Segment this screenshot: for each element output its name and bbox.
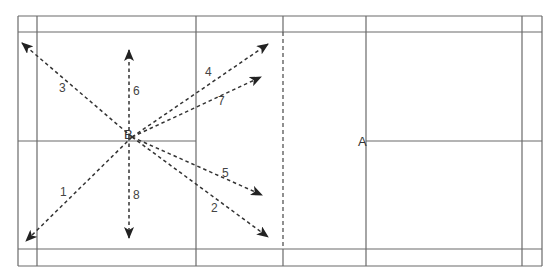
- shot-arrow-1: [26, 137, 132, 241]
- shot-label-2: 2: [211, 202, 218, 214]
- shot-label-6: 6: [133, 85, 140, 97]
- shot-arrow-3: [22, 43, 132, 137]
- shot-label-1: 1: [60, 186, 67, 198]
- shot-label-5: 5: [222, 167, 229, 179]
- point-label-b: B: [124, 128, 133, 141]
- shot-arrows: [22, 43, 268, 241]
- shot-label-7: 7: [218, 95, 225, 107]
- shot-label-8: 8: [133, 189, 140, 201]
- shot-arrow-2: [132, 137, 268, 237]
- shot-arrow-4: [132, 44, 268, 137]
- badminton-court-diagram: [0, 0, 556, 279]
- shot-label-3: 3: [59, 82, 66, 94]
- court-lines: [18, 16, 542, 266]
- shot-label-4: 4: [205, 66, 212, 78]
- shot-arrow-5: [132, 137, 262, 195]
- point-label-a: A: [358, 135, 367, 148]
